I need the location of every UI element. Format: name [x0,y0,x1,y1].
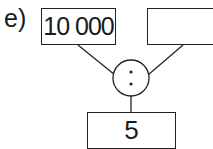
dividend-value: 10 000 [43,14,113,39]
divisor-answer-box[interactable] [147,8,213,45]
quotient-box: 5 [87,112,176,149]
left-connector [78,45,115,75]
right-connector [148,45,183,75]
operator-circle [113,60,149,96]
division-dot-bottom [129,82,132,85]
quotient-value: 5 [124,118,138,143]
dividend-box: 10 000 [41,8,116,45]
division-dot-top [129,70,132,73]
exercise-label: e) [4,6,26,31]
